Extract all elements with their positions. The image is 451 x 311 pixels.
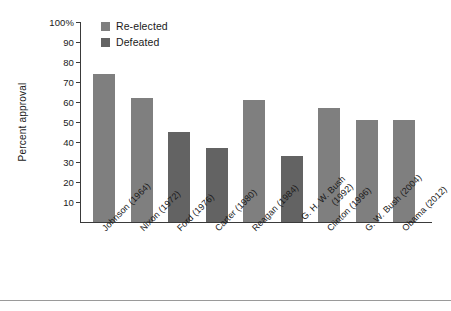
legend-item-label: Re-elected [116,21,168,32]
bar [168,132,190,222]
chart-legend: Re-electedDefeated [101,21,168,53]
y-axis-tick-label: 50 [63,117,74,128]
y-axis-tick-label: 80 [63,57,74,68]
bar [206,148,228,222]
legend-item-label: Defeated [116,37,159,48]
chart-figure: Percent approval 100%908070605040302010 … [0,0,451,311]
y-axis-tick-label: 30 [63,157,74,168]
y-axis-tick-label: 90 [63,37,74,48]
page-divider [0,300,451,301]
y-axis-tick-label: 10 [63,197,74,208]
y-axis-tick-label: 20 [63,177,74,188]
legend-item: Re-elected [101,21,168,32]
y-axis-tick-label: 70 [63,77,74,88]
x-axis-labels: Johnson (1964)Nixon (1972)Ford (1976)Car… [80,226,432,306]
legend-swatch-re-elected [101,22,110,31]
y-axis-tick-label: 40 [63,137,74,148]
y-axis-tick-label: 100% [49,17,74,28]
y-axis-tick-label: 60 [63,97,74,108]
legend-item: Defeated [101,37,168,48]
y-axis-title: Percent approval [17,83,28,162]
legend-swatch-defeated [101,38,110,47]
bar [93,74,115,222]
